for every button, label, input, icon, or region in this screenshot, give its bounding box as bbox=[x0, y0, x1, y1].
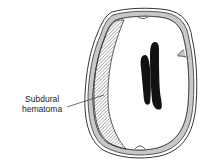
skull-diagram bbox=[0, 0, 205, 167]
label-line-1: Subdural bbox=[22, 94, 62, 104]
subdural-hematoma-label: Subdural hematoma bbox=[22, 94, 62, 114]
label-line-2: hematoma bbox=[22, 104, 62, 114]
